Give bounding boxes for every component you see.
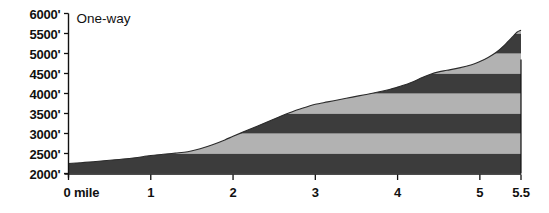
elevation-band-4500-5000	[69, 54, 522, 74]
elevation-profile-plot	[0, 0, 549, 213]
elevation-profile-chart: 2000'2500'3000'3500'4000'4500'5000'5500'…	[0, 0, 549, 213]
y-axis-label-6000: 6000'	[0, 6, 61, 21]
y-axis-label-4500: 4500'	[0, 66, 61, 81]
elevation-band-2000-2500	[69, 154, 522, 174]
y-axis-label-3000: 3000'	[0, 126, 61, 141]
y-axis-label-2500: 2500'	[0, 146, 61, 161]
x-axis-label-2: 2	[230, 185, 237, 200]
x-axis-label-0: 0 mile	[64, 185, 100, 200]
y-axis-label-5500: 5500'	[0, 26, 61, 41]
x-axis-label-5-5: 5.5	[512, 185, 529, 200]
y-axis-label-5000: 5000'	[0, 46, 61, 61]
x-axis-label-4: 4	[394, 185, 401, 200]
y-axis-label-2000: 2000'	[0, 166, 61, 181]
x-axis-label-1: 1	[147, 185, 154, 200]
x-axis-label-3: 3	[312, 185, 319, 200]
elevation-band-group	[69, 14, 522, 174]
elevation-band-2500-3000	[69, 134, 522, 154]
elevation-band-5000-5500	[69, 34, 522, 54]
x-axis-label-5: 5	[476, 185, 483, 200]
elevation-band-3000-3500	[69, 114, 522, 134]
elevation-band-5500-6000	[69, 14, 522, 34]
series-annotation-label: One-way	[77, 11, 131, 26]
elevation-band-4000-4500	[69, 74, 522, 94]
y-axis-label-4000: 4000'	[0, 86, 61, 101]
y-axis-label-3500: 3500'	[0, 106, 61, 121]
